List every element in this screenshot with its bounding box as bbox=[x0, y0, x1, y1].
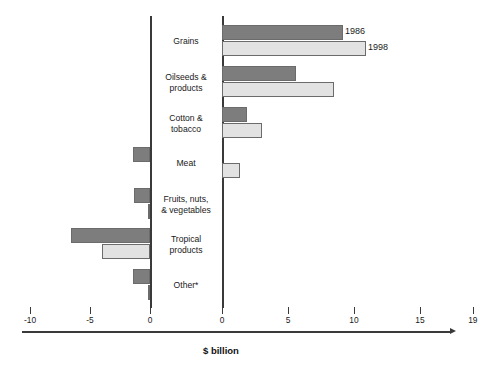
right-axis-5-tick-label: 5 bbox=[273, 315, 303, 325]
right-axis-10-tick bbox=[354, 307, 355, 314]
left-axis--5-tick-label: -5 bbox=[75, 315, 105, 325]
bar-1986-3 bbox=[133, 147, 150, 162]
right-axis-0-tick-label: 0 bbox=[207, 315, 237, 325]
category-label-line: Meat bbox=[150, 158, 222, 169]
left-axis--10-tick bbox=[30, 307, 31, 314]
x-axis-arrow-icon bbox=[450, 328, 456, 334]
bar-1998-1 bbox=[222, 82, 334, 97]
legend-label-1986: 1986 bbox=[345, 26, 365, 36]
left-axis--5-tick bbox=[90, 307, 91, 314]
category-label-line: Grains bbox=[150, 36, 222, 47]
right-axis-15-tick bbox=[420, 307, 421, 314]
right-axis-19-tick bbox=[473, 307, 474, 314]
right-axis-0-tick bbox=[222, 307, 223, 314]
bar-1986-2 bbox=[222, 107, 247, 122]
left-axis-0-tick bbox=[150, 307, 151, 314]
right-zero-axis bbox=[222, 16, 224, 308]
left-axis-0-tick-label: 0 bbox=[135, 315, 165, 325]
category-label-line: & vegetables bbox=[150, 205, 222, 216]
bar-1998-0 bbox=[222, 41, 366, 56]
right-axis-5-tick bbox=[288, 307, 289, 314]
category-label-0: Grains bbox=[150, 36, 222, 47]
category-label-line: Oilseeds & bbox=[150, 72, 222, 83]
bar-1998-2 bbox=[222, 123, 262, 138]
x-axis-title: $ billion bbox=[203, 345, 239, 356]
category-label-line: products bbox=[150, 83, 222, 94]
category-label-line: Tropical bbox=[150, 234, 222, 245]
category-label-line: Cotton & bbox=[150, 113, 222, 124]
x-axis-rule bbox=[22, 331, 452, 333]
bar-1986-1 bbox=[222, 66, 296, 81]
bar-1986-5 bbox=[71, 228, 150, 243]
category-label-6: Other* bbox=[150, 280, 222, 291]
bar-1998-3 bbox=[222, 163, 240, 178]
bar-1986-0 bbox=[222, 25, 343, 40]
bar-1986-6 bbox=[133, 269, 150, 284]
category-label-1: Oilseeds &products bbox=[150, 72, 222, 93]
left-axis--10-tick-label: -10 bbox=[15, 315, 45, 325]
category-label-line: Other* bbox=[150, 280, 222, 291]
bar-1986-4 bbox=[134, 188, 150, 203]
category-label-4: Fruits, nuts,& vegetables bbox=[150, 194, 222, 215]
category-label-5: Tropicalproducts bbox=[150, 234, 222, 255]
category-label-line: products bbox=[150, 245, 222, 256]
category-label-line: Fruits, nuts, bbox=[150, 194, 222, 205]
category-label-line: tobacco bbox=[150, 124, 222, 135]
right-axis-10-tick-label: 10 bbox=[339, 315, 369, 325]
category-label-2: Cotton &tobacco bbox=[150, 113, 222, 134]
right-axis-15-tick-label: 15 bbox=[405, 315, 435, 325]
category-label-3: Meat bbox=[150, 158, 222, 169]
legend-label-1998: 1998 bbox=[368, 42, 388, 52]
bar-1998-5 bbox=[102, 244, 150, 259]
right-axis-19-tick-label: 19 bbox=[458, 315, 482, 325]
